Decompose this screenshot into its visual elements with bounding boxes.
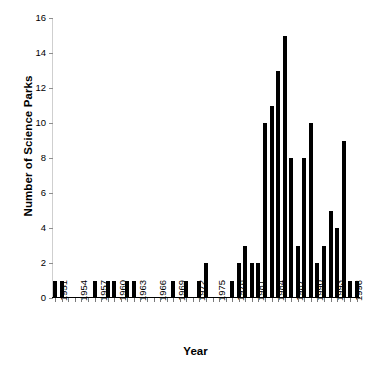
x-tick-mark bbox=[350, 298, 351, 302]
x-tick-mark bbox=[95, 298, 96, 302]
bar bbox=[112, 281, 116, 299]
bar bbox=[93, 281, 97, 299]
x-tick-mark bbox=[265, 298, 266, 302]
bar bbox=[309, 123, 313, 298]
bar bbox=[132, 281, 136, 299]
x-tick-mark bbox=[226, 298, 227, 302]
x-tick-mark bbox=[331, 298, 332, 302]
x-tick-mark bbox=[134, 298, 135, 302]
x-tick-mark bbox=[167, 298, 168, 302]
bar bbox=[53, 281, 57, 299]
x-tick-mark bbox=[101, 298, 102, 302]
x-tick-mark bbox=[245, 298, 246, 302]
y-tick-label: 10 bbox=[20, 118, 46, 128]
x-tick-mark bbox=[55, 298, 56, 302]
x-tick-mark bbox=[199, 298, 200, 302]
y-tick-label: 0 bbox=[20, 293, 46, 303]
bar bbox=[289, 158, 293, 298]
x-tick-mark bbox=[304, 298, 305, 302]
bar bbox=[263, 123, 267, 298]
x-tick-mark bbox=[324, 298, 325, 302]
x-tick-mark bbox=[219, 298, 220, 302]
y-tick-mark bbox=[49, 263, 53, 264]
x-tick-mark bbox=[357, 298, 358, 302]
x-tick-mark bbox=[81, 298, 82, 302]
x-tick-mark bbox=[311, 298, 312, 302]
x-tick-mark bbox=[337, 298, 338, 302]
y-tick-label: 4 bbox=[20, 223, 46, 233]
science-parks-bar-chart: Number of Science Parks 0246810121416 19… bbox=[0, 0, 391, 368]
bar bbox=[342, 141, 346, 299]
y-tick-mark bbox=[49, 123, 53, 124]
y-tick-mark bbox=[49, 298, 53, 299]
bar bbox=[250, 263, 254, 298]
x-tick-mark bbox=[160, 298, 161, 302]
bar bbox=[348, 281, 352, 299]
x-tick-mark bbox=[62, 298, 63, 302]
bar bbox=[276, 71, 280, 299]
y-tick-label: 8 bbox=[20, 153, 46, 163]
bar bbox=[302, 158, 306, 298]
y-tick-label: 2 bbox=[20, 258, 46, 268]
x-tick-mark bbox=[291, 298, 292, 302]
x-tick-mark bbox=[298, 298, 299, 302]
x-tick-mark bbox=[272, 298, 273, 302]
x-tick-mark bbox=[252, 298, 253, 302]
y-tick-mark bbox=[49, 228, 53, 229]
x-tick-mark bbox=[88, 298, 89, 302]
y-tick-label: 12 bbox=[20, 83, 46, 93]
bar bbox=[230, 281, 234, 299]
x-tick-mark bbox=[186, 298, 187, 302]
x-tick-mark bbox=[68, 298, 69, 302]
x-tick-mark bbox=[114, 298, 115, 302]
x-tick-mark bbox=[121, 298, 122, 302]
y-tick-mark bbox=[49, 158, 53, 159]
bar bbox=[270, 106, 274, 299]
x-tick-mark bbox=[147, 298, 148, 302]
x-tick-mark bbox=[285, 298, 286, 302]
x-tick-mark bbox=[173, 298, 174, 302]
plot-area: 0246810121416 19511954195719601963196619… bbox=[52, 18, 360, 298]
x-tick-mark bbox=[258, 298, 259, 302]
x-tick-mark bbox=[140, 298, 141, 302]
y-tick-label: 16 bbox=[20, 13, 46, 23]
x-tick-mark bbox=[108, 298, 109, 302]
y-tick-mark bbox=[49, 193, 53, 194]
y-tick-mark bbox=[49, 88, 53, 89]
x-tick-mark bbox=[206, 298, 207, 302]
x-tick-mark bbox=[154, 298, 155, 302]
bar bbox=[171, 281, 175, 299]
x-tick-mark bbox=[127, 298, 128, 302]
x-tick-mark bbox=[278, 298, 279, 302]
x-tick-mark bbox=[193, 298, 194, 302]
x-tick-label: 1996 bbox=[354, 280, 364, 301]
y-tick-mark bbox=[49, 53, 53, 54]
x-axis-title: Year bbox=[0, 345, 391, 357]
bar bbox=[283, 36, 287, 299]
y-tick-mark bbox=[49, 18, 53, 19]
y-tick-label: 6 bbox=[20, 188, 46, 198]
x-tick-mark bbox=[344, 298, 345, 302]
x-tick-mark bbox=[317, 298, 318, 302]
x-tick-mark bbox=[180, 298, 181, 302]
y-tick-label: 14 bbox=[20, 48, 46, 58]
x-tick-mark bbox=[213, 298, 214, 302]
x-tick-mark bbox=[232, 298, 233, 302]
x-tick-mark bbox=[75, 298, 76, 302]
bar bbox=[329, 211, 333, 299]
x-tick-mark bbox=[239, 298, 240, 302]
